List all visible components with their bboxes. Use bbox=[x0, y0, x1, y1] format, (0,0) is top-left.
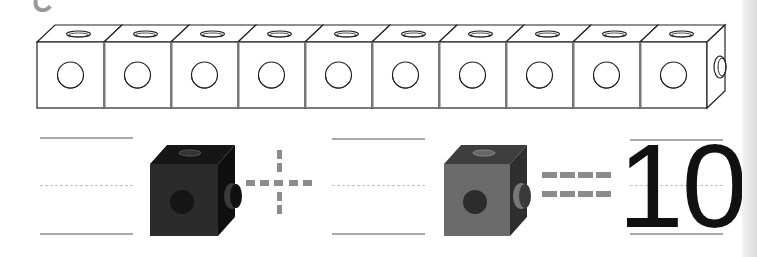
result-box: 10 bbox=[618, 138, 730, 238]
gray-cube-icon bbox=[440, 140, 540, 236]
guide-line-mid bbox=[332, 185, 425, 186]
guide-line-bottom bbox=[332, 233, 425, 235]
equals-operator bbox=[542, 170, 612, 200]
guide-line-top bbox=[40, 137, 133, 139]
plus-operator bbox=[246, 150, 318, 220]
guide-line-mid bbox=[40, 185, 133, 186]
cube-train bbox=[0, 0, 757, 130]
guide-line-top bbox=[332, 138, 425, 140]
cube-train-cubes bbox=[37, 25, 726, 108]
dark-cube-icon bbox=[145, 140, 245, 236]
guide-line-bottom bbox=[40, 233, 133, 235]
page-edge-decoration bbox=[742, 0, 757, 257]
result-number: 10 bbox=[618, 130, 730, 242]
